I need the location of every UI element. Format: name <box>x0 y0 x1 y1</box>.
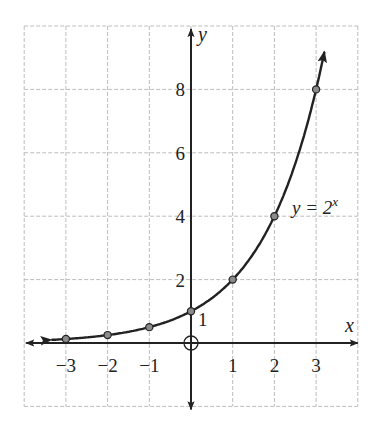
x-tick-label: −2 <box>97 355 117 376</box>
y-intercept-label: 1 <box>198 309 208 330</box>
axes <box>26 29 358 409</box>
data-point <box>146 324 153 331</box>
x-tick-label: 1 <box>228 355 238 376</box>
equation-exponent: x <box>331 194 338 209</box>
equation-label: y = 2x <box>290 194 338 218</box>
y-tick-label: 4 <box>176 206 186 227</box>
y-tick-label: 2 <box>176 270 186 291</box>
x-tick-label: −1 <box>139 355 159 376</box>
tick-labels: −3−2−11232468 <box>56 79 321 376</box>
equation-main: y = 2 <box>290 197 333 218</box>
data-point <box>187 308 194 315</box>
y-tick-label: 8 <box>176 79 186 100</box>
x-tick-label: −3 <box>56 355 76 376</box>
x-tick-label: 2 <box>270 355 280 376</box>
data-point <box>104 331 111 338</box>
y-tick-label: 6 <box>176 143 186 164</box>
y-axis-label: y <box>196 23 207 46</box>
data-point <box>229 276 236 283</box>
data-point <box>271 213 278 220</box>
data-point <box>313 86 320 93</box>
curve-y-equals-2-to-x <box>51 52 324 340</box>
exponential-chart: −3−2−11232468 y x 1 y = 2x <box>0 0 374 430</box>
data-point <box>62 335 69 342</box>
x-tick-label: 3 <box>311 355 321 376</box>
x-axis-label: x <box>344 314 354 336</box>
